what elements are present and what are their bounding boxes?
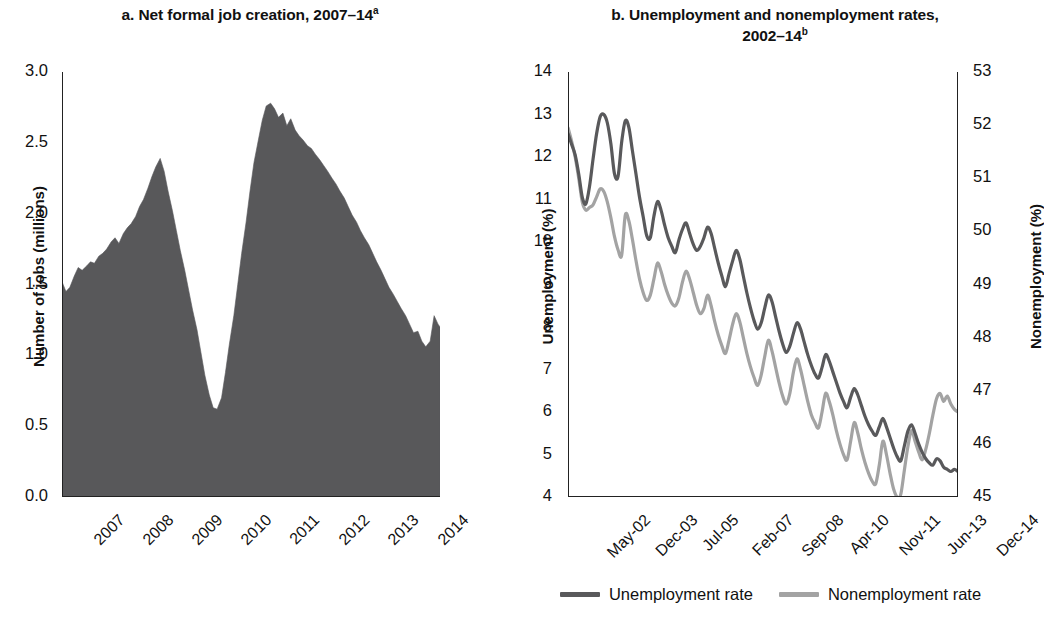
panel-a-title-superscript: a [373, 5, 378, 16]
legend-item-unemployment-rate[interactable]: Unemployment rate [560, 585, 753, 604]
right-y-tick-label-51: 51 [973, 167, 1003, 186]
right-y-tick-label-48: 48 [973, 327, 1003, 346]
left-y-tick-label-6: 6 [522, 401, 552, 420]
right-y-tick-label-52: 52 [973, 114, 1003, 133]
left-y-tick-label-10: 10 [522, 231, 552, 250]
x-tick-label-Dec-14: Dec-14 [993, 511, 1042, 560]
x-tick-label-2009: 2009 [189, 511, 227, 549]
x-tick-label-Feb-07: Feb-07 [749, 511, 798, 560]
left-y-tick-label-5: 5 [522, 444, 552, 463]
right-y-tick-label-46: 46 [973, 433, 1003, 452]
left-y-tick-label-8: 8 [522, 316, 552, 335]
panel-a-plot-area: 0.00.51.01.52.02.53.0 200720082009201020… [62, 72, 440, 497]
x-tick-label-Jul-05: Jul-05 [698, 511, 742, 555]
panel-b-title: b. Unemployment and nonemployment rates,… [540, 4, 1010, 46]
legend-swatch-nonemployment-icon [779, 592, 819, 597]
panel-b-title-line2: 2002–14 [742, 27, 802, 44]
legend-label: Nonemployment rate [828, 585, 981, 604]
right-y-tick-label-50: 50 [973, 220, 1003, 239]
x-tick-label-Jun-13: Jun-13 [944, 511, 991, 558]
right-y-tick-label-53: 53 [973, 61, 1003, 80]
x-tick-label-2010: 2010 [238, 511, 276, 549]
panel-b-unemployment-nonemployment-rates: b. Unemployment and nonemployment rates,… [500, 0, 1041, 619]
left-y-tick-label-14: 14 [522, 61, 552, 80]
x-tick-label-2011: 2011 [286, 511, 323, 548]
panel-a-title-text: a. Net formal job creation, 2007–14 [122, 6, 374, 23]
y-tick-label-1.5: 1.5 [2, 274, 48, 293]
x-tick-label-May-02: May-02 [604, 511, 654, 561]
panel-a-area-series [62, 103, 440, 497]
legend-label: Unemployment rate [609, 585, 753, 604]
panel-b-title-superscript: b [802, 26, 808, 37]
left-y-tick-label-9: 9 [522, 274, 552, 293]
panel-b-legend: Unemployment rateNonemployment rate [500, 585, 1041, 604]
y-tick-label-0.5: 0.5 [2, 415, 48, 434]
x-tick-label-2012: 2012 [336, 511, 374, 549]
x-tick-label-2008: 2008 [139, 511, 177, 549]
y-tick-label-3.0: 3.0 [2, 61, 48, 80]
panel-b-plot-area: 4567891011121314 454647484950515253 May-… [568, 72, 958, 497]
left-y-tick-label-12: 12 [522, 146, 552, 165]
x-tick-label-Nov-11: Nov-11 [895, 511, 943, 559]
x-tick-label-Sep-08: Sep-08 [798, 511, 847, 560]
panel-a-title: a. Net formal job creation, 2007–14a [30, 4, 470, 25]
left-y-tick-label-7: 7 [522, 359, 552, 378]
legend-item-nonemployment-rate[interactable]: Nonemployment rate [779, 585, 981, 604]
right-y-tick-label-45: 45 [973, 486, 1003, 505]
legend-swatch-unemployment-icon [560, 592, 600, 597]
left-y-tick-label-13: 13 [522, 104, 552, 123]
x-tick-label-2007: 2007 [90, 511, 128, 549]
x-tick-label-2013: 2013 [385, 511, 423, 549]
x-tick-label-Apr-10: Apr-10 [846, 511, 893, 558]
panel-b-title-line1: b. Unemployment and nonemployment rates, [611, 6, 939, 23]
right-y-tick-label-47: 47 [973, 380, 1003, 399]
y-tick-label-2.5: 2.5 [2, 132, 48, 151]
panel-a-net-formal-job-creation: a. Net formal job creation, 2007–14a Num… [0, 0, 500, 619]
y-tick-label-0.0: 0.0 [2, 486, 48, 505]
y-tick-label-2.0: 2.0 [2, 203, 48, 222]
panel-b-right-y-axis-title: Nonemployment (%) [1027, 162, 1044, 392]
left-y-tick-label-4: 4 [522, 486, 552, 505]
left-y-tick-label-11: 11 [522, 189, 552, 208]
panel-a-svg [62, 72, 440, 497]
x-tick-label-2014: 2014 [434, 511, 472, 549]
x-tick-label-Dec-03: Dec-03 [652, 511, 701, 560]
line-series-unemployment [568, 114, 958, 472]
right-y-tick-label-49: 49 [973, 274, 1003, 293]
y-tick-label-1.0: 1.0 [2, 344, 48, 363]
panel-b-axes [568, 72, 958, 497]
panel-b-line-series [568, 114, 958, 497]
panel-b-svg [568, 72, 958, 497]
area-series-net-jobs [62, 103, 440, 497]
